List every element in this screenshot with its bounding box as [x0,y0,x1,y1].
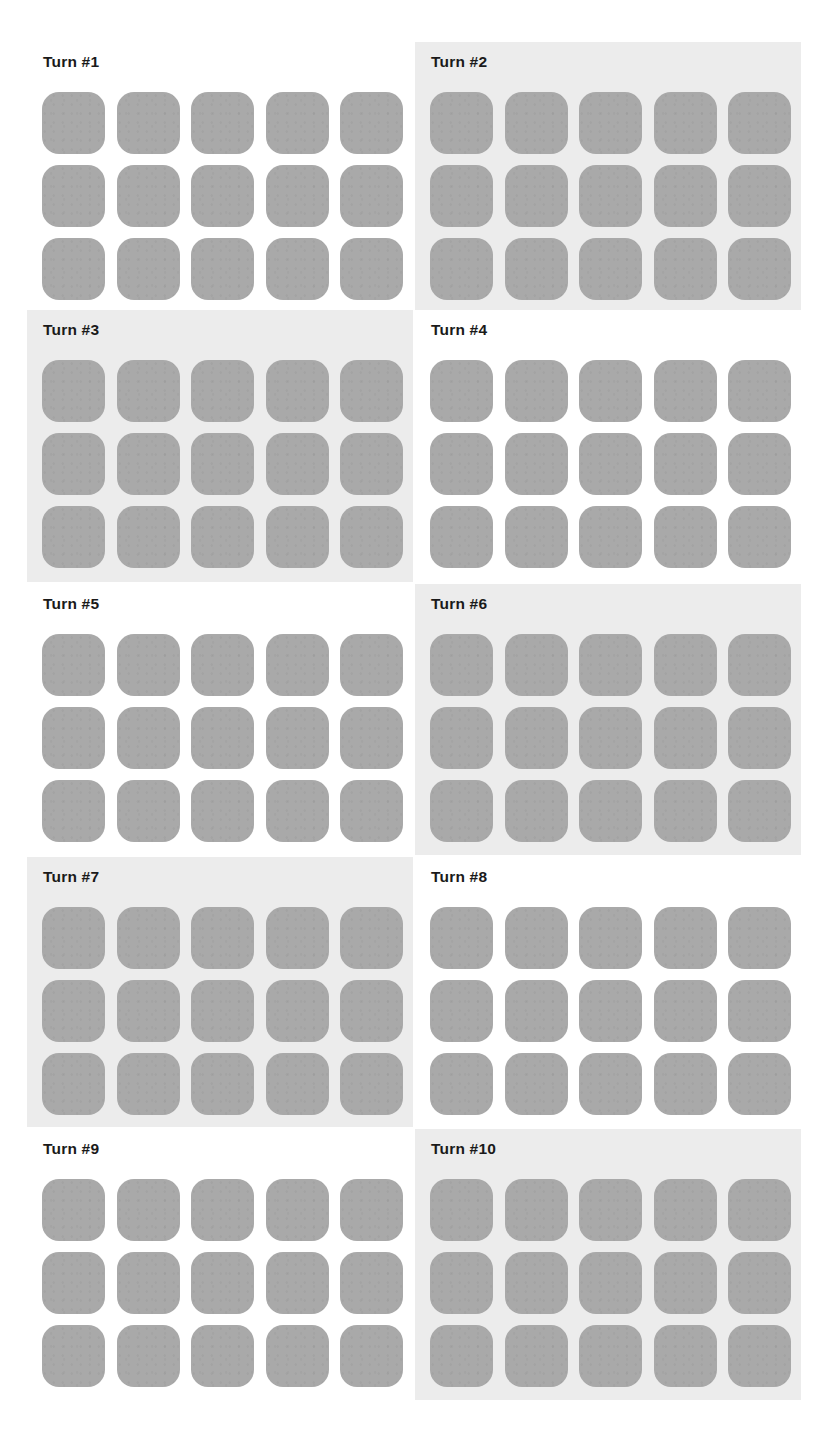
card-tile[interactable] [579,780,642,842]
card-tile[interactable] [654,907,717,969]
card-tile[interactable] [340,707,403,769]
card-tile[interactable] [191,707,254,769]
card-tile[interactable] [42,165,105,227]
card-tile[interactable] [654,634,717,696]
card-tile[interactable] [42,634,105,696]
card-tile[interactable] [728,506,791,568]
card-tile[interactable] [430,634,493,696]
card-tile[interactable] [654,980,717,1042]
card-tile[interactable] [117,238,180,300]
card-tile[interactable] [430,360,493,422]
card-tile[interactable] [728,1053,791,1115]
card-tile[interactable] [117,707,180,769]
card-tile[interactable] [340,780,403,842]
card-tile[interactable] [42,238,105,300]
card-tile[interactable] [579,1179,642,1241]
card-tile[interactable] [191,238,254,300]
card-tile[interactable] [42,1252,105,1314]
card-tile[interactable] [654,165,717,227]
card-tile[interactable] [430,1325,493,1387]
card-tile[interactable] [579,165,642,227]
card-tile[interactable] [728,1252,791,1314]
card-tile[interactable] [654,780,717,842]
card-tile[interactable] [42,1325,105,1387]
card-tile[interactable] [728,980,791,1042]
card-tile[interactable] [191,360,254,422]
card-tile[interactable] [191,1053,254,1115]
card-tile[interactable] [430,780,493,842]
card-tile[interactable] [728,634,791,696]
card-tile[interactable] [42,1053,105,1115]
card-tile[interactable] [728,238,791,300]
card-tile[interactable] [505,433,568,495]
card-tile[interactable] [728,433,791,495]
card-tile[interactable] [266,238,329,300]
card-tile[interactable] [340,634,403,696]
card-tile[interactable] [42,433,105,495]
card-tile[interactable] [42,980,105,1042]
card-tile[interactable] [117,1053,180,1115]
card-tile[interactable] [654,433,717,495]
card-tile[interactable] [42,907,105,969]
card-tile[interactable] [266,980,329,1042]
card-tile[interactable] [117,165,180,227]
card-tile[interactable] [728,1325,791,1387]
card-tile[interactable] [579,907,642,969]
card-tile[interactable] [117,92,180,154]
card-tile[interactable] [117,980,180,1042]
card-tile[interactable] [266,1053,329,1115]
card-tile[interactable] [430,1053,493,1115]
card-tile[interactable] [505,165,568,227]
card-tile[interactable] [266,506,329,568]
card-tile[interactable] [654,360,717,422]
card-tile[interactable] [266,165,329,227]
card-tile[interactable] [191,506,254,568]
card-tile[interactable] [340,433,403,495]
card-tile[interactable] [654,238,717,300]
card-tile[interactable] [430,1179,493,1241]
card-tile[interactable] [191,980,254,1042]
card-tile[interactable] [340,92,403,154]
card-tile[interactable] [340,1325,403,1387]
card-tile[interactable] [191,433,254,495]
card-tile[interactable] [728,707,791,769]
card-tile[interactable] [579,707,642,769]
card-tile[interactable] [505,980,568,1042]
card-tile[interactable] [579,1325,642,1387]
card-tile[interactable] [505,907,568,969]
card-tile[interactable] [340,165,403,227]
card-tile[interactable] [42,780,105,842]
card-tile[interactable] [117,360,180,422]
card-tile[interactable] [728,780,791,842]
card-tile[interactable] [654,506,717,568]
card-tile[interactable] [340,980,403,1042]
card-tile[interactable] [266,1179,329,1241]
card-tile[interactable] [654,1325,717,1387]
card-tile[interactable] [505,1053,568,1115]
card-tile[interactable] [266,433,329,495]
card-tile[interactable] [191,165,254,227]
card-tile[interactable] [340,360,403,422]
card-tile[interactable] [266,360,329,422]
card-tile[interactable] [266,780,329,842]
card-tile[interactable] [266,1325,329,1387]
card-tile[interactable] [340,506,403,568]
card-tile[interactable] [117,634,180,696]
card-tile[interactable] [579,433,642,495]
card-tile[interactable] [430,707,493,769]
card-tile[interactable] [266,634,329,696]
card-tile[interactable] [117,506,180,568]
card-tile[interactable] [505,1252,568,1314]
card-tile[interactable] [117,433,180,495]
card-tile[interactable] [191,1325,254,1387]
card-tile[interactable] [191,780,254,842]
card-tile[interactable] [728,92,791,154]
card-tile[interactable] [430,907,493,969]
card-tile[interactable] [579,980,642,1042]
card-tile[interactable] [505,1325,568,1387]
card-tile[interactable] [430,92,493,154]
card-tile[interactable] [266,92,329,154]
card-tile[interactable] [117,1325,180,1387]
card-tile[interactable] [505,360,568,422]
card-tile[interactable] [117,780,180,842]
